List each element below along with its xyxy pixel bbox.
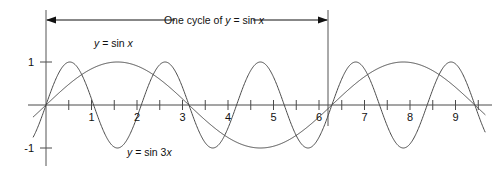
curve-label-sin-3x: y = sin 3x	[126, 146, 172, 158]
x-tick-label-9: 9	[452, 111, 458, 123]
cycle-prefix: One cycle of	[164, 14, 225, 26]
x-tick-label-8: 8	[407, 111, 413, 123]
curve-label-sin-x: y = sin x	[93, 37, 134, 49]
sinx-equals: = sin	[99, 37, 127, 49]
cycle-annotation-label: One cycle of y = sin x	[164, 14, 265, 26]
x-tick-label-4: 4	[225, 111, 231, 123]
sinx-var-x: x	[127, 37, 134, 49]
x-axis-tick-labels: 123456789	[88, 111, 458, 123]
x-tick-label-1: 1	[88, 111, 94, 123]
y-tick-label--1: -1	[24, 142, 34, 154]
cycle-arrow-left-head-icon	[46, 17, 56, 24]
x-tick-label-6: 6	[316, 111, 322, 123]
x-tick-label-2: 2	[134, 111, 140, 123]
sin3x-var-x: x	[165, 146, 172, 158]
x-tick-label-7: 7	[361, 111, 367, 123]
cycle-var-x: x	[258, 14, 265, 26]
x-tick-label-3: 3	[179, 111, 185, 123]
sine-graph-figure: One cycle of y = sin x y = sin x y = sin…	[0, 0, 499, 182]
sine-plot-svg: One cycle of y = sin x y = sin x y = sin…	[0, 0, 499, 182]
cycle-equals: = sin	[230, 14, 258, 26]
sin3x-equals: = sin 3	[132, 146, 166, 158]
cycle-arrow-right-head-icon	[318, 17, 328, 24]
x-tick-label-5: 5	[270, 111, 276, 123]
y-tick-label-1: 1	[28, 56, 34, 68]
